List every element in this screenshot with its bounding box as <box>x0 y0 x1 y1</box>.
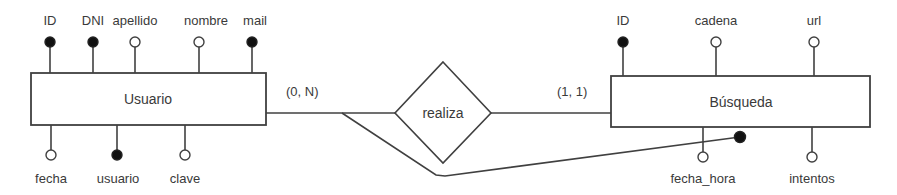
attribute-busqueda-intentos[interactable]: intentos <box>789 152 835 186</box>
key-attribute-icon <box>88 37 98 47</box>
attribute-label: nombre <box>184 13 228 28</box>
relationship-realiza[interactable]: realiza <box>395 62 491 163</box>
attribute-busqueda-cadena[interactable]: cadena <box>695 13 738 47</box>
attribute-icon <box>807 152 817 162</box>
attribute-usuario-fecha[interactable]: fecha <box>35 150 68 186</box>
attribute-icon <box>194 37 204 47</box>
cardinality-left: (0, N) <box>286 84 319 99</box>
attribute-label: fecha <box>35 171 68 186</box>
attribute-label: fecha_hora <box>670 171 736 186</box>
key-attribute-icon <box>618 37 628 47</box>
attribute-label: clave <box>170 171 200 186</box>
cardinality-right: (1, 1) <box>557 84 587 99</box>
composite-key-icon <box>735 132 746 143</box>
attribute-icon <box>180 150 190 160</box>
entity-usuario-label: Usuario <box>124 91 172 107</box>
attribute-label: mail <box>243 13 267 28</box>
key-attribute-icon <box>247 37 257 47</box>
attribute-label: intentos <box>789 171 835 186</box>
attribute-icon <box>809 37 819 47</box>
attribute-label: DNI <box>82 13 104 28</box>
attribute-icon <box>130 37 140 47</box>
attribute-usuario-clave[interactable]: clave <box>170 150 200 186</box>
attribute-usuario-apellido[interactable]: apellido <box>113 13 158 47</box>
attribute-label: ID <box>617 13 630 28</box>
entity-busqueda-label: Búsqueda <box>709 94 772 110</box>
entity-usuario[interactable]: Usuario <box>31 73 266 125</box>
attribute-busqueda-id[interactable]: ID <box>617 13 630 47</box>
attribute-label: usuario <box>97 171 140 186</box>
attribute-busqueda-url[interactable]: url <box>807 13 822 47</box>
relationship-realiza-label: realiza <box>422 105 463 121</box>
attribute-usuario-mail[interactable]: mail <box>243 13 267 47</box>
attribute-usuario-nombre[interactable]: nombre <box>184 13 228 47</box>
key-attribute-icon <box>112 150 122 160</box>
attribute-label: ID <box>44 13 57 28</box>
attribute-label: apellido <box>113 13 158 28</box>
er-diagram: Usuario Búsqueda realiza (0, N) (1, 1) I… <box>0 0 897 195</box>
attribute-icon <box>46 150 56 160</box>
attribute-usuario-dni[interactable]: DNI <box>82 13 104 47</box>
key-attribute-icon <box>45 37 55 47</box>
attribute-busqueda-fecha-hora[interactable]: fecha_hora <box>670 152 736 186</box>
attribute-label: cadena <box>695 13 738 28</box>
entity-busqueda[interactable]: Búsqueda <box>611 76 870 127</box>
attribute-icon <box>711 37 721 47</box>
attribute-usuario-id[interactable]: ID <box>44 13 57 47</box>
attribute-icon <box>698 152 708 162</box>
attribute-label: url <box>807 13 822 28</box>
attribute-usuario-usuario[interactable]: usuario <box>97 150 140 186</box>
